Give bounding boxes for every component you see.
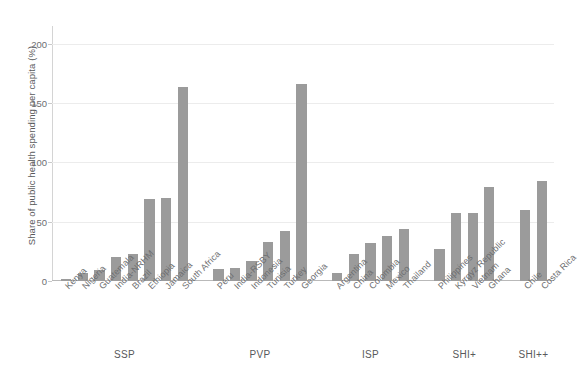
- bar-slot[interactable]: [464, 26, 481, 281]
- bar-slot[interactable]: [293, 26, 310, 281]
- bar-slot[interactable]: [329, 26, 346, 281]
- bar-slot[interactable]: [58, 26, 75, 281]
- bar-slot[interactable]: [158, 26, 175, 281]
- group-label-isp: ISP: [362, 349, 379, 360]
- plot-area: 050100150200: [52, 26, 554, 281]
- bar-slot[interactable]: [346, 26, 363, 281]
- bar[interactable]: [537, 181, 547, 281]
- bar-slot[interactable]: [243, 26, 260, 281]
- y-tick-label: 100: [31, 157, 47, 168]
- bar-slot[interactable]: [141, 26, 158, 281]
- y-tick-mark: [48, 281, 52, 282]
- group-label-ssp: SSP: [114, 349, 135, 360]
- bar[interactable]: [520, 210, 530, 281]
- group-label-shiplusplus: SHI++: [518, 349, 548, 360]
- bar-slot[interactable]: [75, 26, 92, 281]
- y-axis-title: Share of public health spending per capi…: [26, 21, 37, 271]
- bar-slot[interactable]: [431, 26, 448, 281]
- group-label-pvp: PVP: [249, 349, 270, 360]
- bar-slot[interactable]: [124, 26, 141, 281]
- y-tick-label: 50: [36, 216, 47, 227]
- bar-slot[interactable]: [395, 26, 412, 281]
- group-label-shiplus: SHI+: [453, 349, 477, 360]
- bar-slot[interactable]: [174, 26, 191, 281]
- bar[interactable]: [296, 84, 306, 281]
- bar-slot[interactable]: [448, 26, 465, 281]
- y-tick-label: 200: [31, 38, 47, 49]
- bar-slot[interactable]: [108, 26, 125, 281]
- bar-slot[interactable]: [210, 26, 227, 281]
- bar-slot[interactable]: [260, 26, 277, 281]
- bar[interactable]: [178, 87, 188, 282]
- bar-slot[interactable]: [517, 26, 534, 281]
- bar-slot[interactable]: [91, 26, 108, 281]
- bar-slot[interactable]: [277, 26, 294, 281]
- y-tick-label: 150: [31, 98, 47, 109]
- bar-series: [52, 26, 554, 281]
- bar-slot[interactable]: [227, 26, 244, 281]
- bar-slot[interactable]: [379, 26, 396, 281]
- y-tick-label: 0: [42, 276, 47, 287]
- bar-slot[interactable]: [362, 26, 379, 281]
- bar-slot[interactable]: [533, 26, 550, 281]
